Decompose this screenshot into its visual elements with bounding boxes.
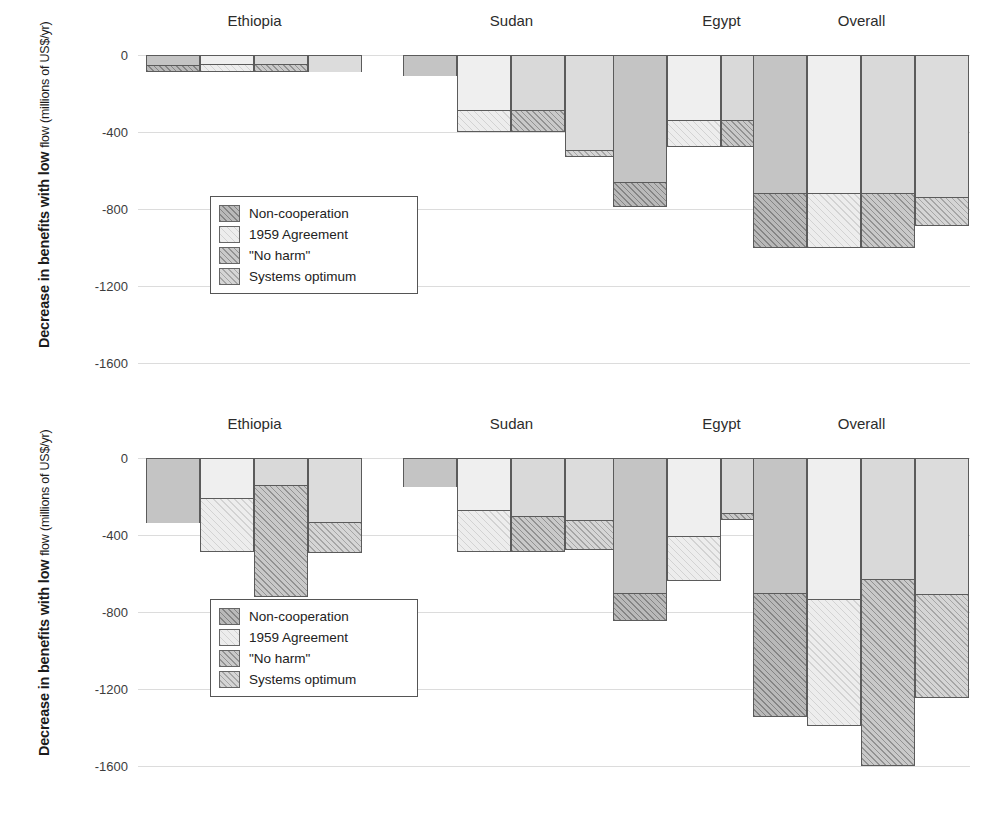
- group-label-sudan: Sudan: [403, 415, 620, 432]
- bar-segment-upper: [201, 56, 253, 64]
- bar-segment-lower: [754, 193, 806, 248]
- bar-segment-upper: [916, 459, 968, 594]
- legend-item-noncoop[interactable]: Non-cooperation: [219, 606, 407, 627]
- bar-ethiopia-sysopt[interactable]: [308, 55, 362, 72]
- bar-sudan-noncoop[interactable]: [403, 55, 457, 76]
- group-label-ethiopia: Ethiopia: [146, 415, 363, 432]
- legend: Non-cooperation1959 Agreement"No harm"Sy…: [210, 599, 418, 697]
- bar-segment-upper: [862, 56, 914, 193]
- plot-area-bottom: 0-400-800-1200-1600EthiopiaSudanEgyptOve…: [138, 403, 970, 813]
- bar-sudan-a1959[interactable]: [457, 458, 511, 552]
- chart-panel-bottom: Decrease in benefits with low flow (mill…: [0, 403, 981, 813]
- bar-overall-noncoop[interactable]: [753, 458, 807, 717]
- legend-label-a1959: 1959 Agreement: [249, 630, 348, 645]
- y-axis-title-main: Decrease in benefits with low: [36, 152, 52, 348]
- bar-segment-upper: [255, 459, 307, 485]
- y-axis-tick-label: -1600: [58, 759, 128, 774]
- bar-ethiopia-a1959[interactable]: [200, 458, 254, 552]
- bar-ethiopia-noharm[interactable]: [254, 55, 308, 72]
- gridline: [138, 766, 970, 767]
- bar-overall-a1959[interactable]: [807, 55, 861, 248]
- bar-overall-noncoop[interactable]: [753, 55, 807, 248]
- bar-segment-lower: [512, 110, 564, 131]
- y-axis-tick-label: -800: [58, 202, 128, 217]
- bar-sudan-noncoop[interactable]: [403, 458, 457, 487]
- legend-swatch-sysopt: [219, 268, 240, 285]
- bar-egypt-noncoop[interactable]: [613, 458, 667, 621]
- bar-sudan-sysopt[interactable]: [565, 55, 619, 157]
- bar-egypt-a1959[interactable]: [667, 458, 721, 581]
- gridline: [138, 363, 970, 364]
- bar-segment-upper: [147, 56, 199, 65]
- legend-item-noncoop[interactable]: Non-cooperation: [219, 203, 407, 224]
- bar-segment-lower: [668, 536, 720, 580]
- bar-sudan-noharm[interactable]: [511, 55, 565, 132]
- legend: Non-cooperation1959 Agreement"No harm"Sy…: [210, 196, 418, 294]
- bar-ethiopia-noharm[interactable]: [254, 458, 308, 597]
- legend-item-sysopt[interactable]: Systems optimum: [219, 266, 407, 287]
- chart-panel-top: Decrease in benefits with low flow (mill…: [0, 0, 981, 400]
- y-axis-tick-label: -1200: [58, 682, 128, 697]
- bar-segment-lower: [808, 193, 860, 248]
- legend-swatch-a1959: [219, 226, 240, 243]
- bar-overall-a1959[interactable]: [807, 458, 861, 726]
- bar-segment-upper: [754, 56, 806, 193]
- bar-segment-upper: [404, 459, 456, 487]
- bar-segment-upper: [862, 459, 914, 579]
- bar-segment-lower: [754, 593, 806, 716]
- y-axis-title-top: Decrease in benefits with low flow (mill…: [35, 20, 55, 350]
- bar-segment-lower: [916, 197, 968, 225]
- y-axis-title-bottom: Decrease in benefits with low flow (mill…: [35, 428, 55, 758]
- bar-egypt-noncoop[interactable]: [613, 55, 667, 207]
- bar-segment-lower: [458, 110, 510, 131]
- legend-swatch-noncoop: [219, 205, 240, 222]
- plot-area-top: 0-400-800-1200-1600EthiopiaSudanEgyptOve…: [138, 0, 970, 400]
- bar-segment-lower: [255, 485, 307, 596]
- bar-sudan-a1959[interactable]: [457, 55, 511, 132]
- bar-segment-lower: [201, 64, 253, 71]
- legend-item-a1959[interactable]: 1959 Agreement: [219, 224, 407, 245]
- legend-label-sysopt: Systems optimum: [249, 672, 356, 687]
- bar-overall-sysopt[interactable]: [915, 458, 969, 698]
- y-axis-title-main: Decrease in benefits with low: [36, 560, 52, 756]
- bar-ethiopia-a1959[interactable]: [200, 55, 254, 72]
- legend-label-noharm: "No harm": [249, 248, 310, 263]
- group-label-overall: Overall: [753, 12, 970, 29]
- legend-swatch-sysopt: [219, 671, 240, 688]
- bar-segment-lower: [862, 193, 914, 248]
- bar-ethiopia-noncoop[interactable]: [146, 55, 200, 72]
- y-axis-tick-label: -400: [58, 528, 128, 543]
- bar-segment-lower: [458, 510, 510, 551]
- bar-segment-upper: [512, 459, 564, 516]
- legend-item-sysopt[interactable]: Systems optimum: [219, 669, 407, 690]
- bar-segment-lower: [147, 65, 199, 71]
- bar-segment-upper: [458, 459, 510, 510]
- bar-segment-upper: [512, 56, 564, 110]
- legend-swatch-noncoop: [219, 608, 240, 625]
- bar-overall-noharm[interactable]: [861, 458, 915, 766]
- legend-item-a1959[interactable]: 1959 Agreement: [219, 627, 407, 648]
- bar-segment-lower: [862, 579, 914, 765]
- group-label-ethiopia: Ethiopia: [146, 12, 363, 29]
- bar-ethiopia-sysopt[interactable]: [308, 458, 362, 553]
- bar-segment-upper: [566, 459, 618, 520]
- bar-segment-upper: [668, 56, 720, 120]
- legend-label-sysopt: Systems optimum: [249, 269, 356, 284]
- bar-overall-sysopt[interactable]: [915, 55, 969, 226]
- bar-segment-lower: [566, 520, 618, 550]
- bar-egypt-a1959[interactable]: [667, 55, 721, 147]
- y-axis-title-sub: flow (millions of US$/yr): [38, 22, 52, 148]
- y-axis-tick-label: 0: [58, 451, 128, 466]
- legend-item-noharm[interactable]: "No harm": [219, 648, 407, 669]
- bar-sudan-noharm[interactable]: [511, 458, 565, 552]
- bar-segment-lower: [512, 516, 564, 552]
- bar-segment-upper: [668, 459, 720, 536]
- bar-sudan-sysopt[interactable]: [565, 458, 619, 550]
- bar-segment-lower: [614, 593, 666, 620]
- bar-overall-noharm[interactable]: [861, 55, 915, 248]
- bar-segment-upper: [808, 459, 860, 599]
- bar-ethiopia-noncoop[interactable]: [146, 458, 200, 523]
- legend-item-noharm[interactable]: "No harm": [219, 245, 407, 266]
- bar-segment-lower: [566, 150, 618, 156]
- bar-segment-lower: [668, 120, 720, 146]
